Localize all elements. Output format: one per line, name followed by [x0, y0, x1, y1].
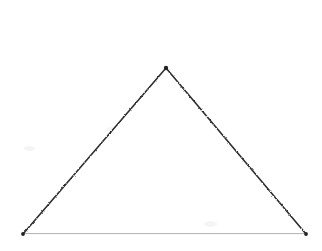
triangle-figure	[0, 0, 322, 251]
apex-vertex-dot	[164, 66, 168, 70]
bottom-left-vertex-dot	[21, 232, 25, 236]
page-background	[0, 0, 322, 251]
drawing-canvas	[0, 0, 322, 251]
bottom-right-vertex-dot	[304, 232, 308, 236]
